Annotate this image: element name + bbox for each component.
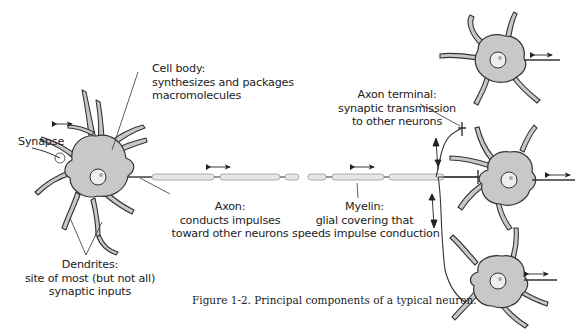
axon-title: Axon: xyxy=(160,200,300,214)
nucleus xyxy=(90,169,106,185)
myelin-label: Myelin: glial covering that speeds impul… xyxy=(292,200,437,241)
cell-body-desc-1: synthesizes and packages xyxy=(152,76,294,90)
cell-body-desc-2: macromolecules xyxy=(152,89,294,103)
main-neuron xyxy=(32,90,147,255)
myelin-desc-1: glial covering that xyxy=(292,214,437,228)
synapse-title: Synapse xyxy=(18,135,64,149)
cell-body-label: Cell body: synthesizes and packages macr… xyxy=(152,62,294,103)
target-neuron-bottom xyxy=(450,228,557,328)
axon-terminal-desc-1: synaptic transmission xyxy=(332,102,462,116)
cell-body-title: Cell body: xyxy=(152,62,294,76)
myelin-desc-2: speeds impulse conduction xyxy=(292,227,437,241)
dendrites-desc-1: site of most (but not all) xyxy=(20,272,160,286)
axon-terminal-label: Axon terminal: synaptic transmission to … xyxy=(332,88,462,129)
synapse-label: Synapse xyxy=(18,135,64,149)
axon-terminal-title: Axon terminal: xyxy=(332,88,462,102)
axon-desc-1: conducts impulses xyxy=(160,214,300,228)
dendrites-desc-2: synaptic inputs xyxy=(20,285,160,299)
myelin-title: Myelin: xyxy=(292,200,437,214)
nucleolus xyxy=(99,173,103,177)
dendrites-title: Dendrites: xyxy=(20,258,160,272)
dendrites-label: Dendrites: site of most (but not all) sy… xyxy=(20,258,160,299)
axon-terminal-desc-2: to other neurons xyxy=(332,115,462,129)
axon xyxy=(128,164,480,180)
cell-body xyxy=(65,135,134,197)
axon-desc-2: toward other neurons xyxy=(160,227,300,241)
myelin-sheath xyxy=(152,174,444,180)
figure-caption: Figure 1-2. Principal components of a ty… xyxy=(192,294,477,306)
axon-label: Axon: conducts impulses toward other neu… xyxy=(160,200,300,241)
